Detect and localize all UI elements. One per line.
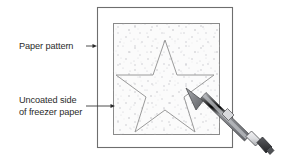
freezer-paper-speckle-overlay: [114, 24, 220, 135]
label-paper-pattern: Paper pattern: [19, 41, 73, 51]
label-uncoated-side-line2: of freezer paper: [19, 107, 82, 117]
diagram-canvas: Paper pattern Uncoated side of freezer p…: [0, 0, 296, 165]
label-uncoated-side-line1: Uncoated side: [19, 95, 76, 105]
